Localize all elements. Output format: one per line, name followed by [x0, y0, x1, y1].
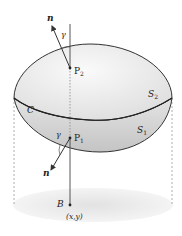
- surface-s2: [14, 44, 172, 120]
- label-coords: (x,y): [66, 212, 83, 221]
- region-b-shadow: [13, 188, 173, 222]
- surface-integral-diagram: n γ P2 S2 C S1 γ P1 n B (x,y): [0, 0, 182, 236]
- diagram-svg: n γ P2 S2 C S1 γ P1 n B (x,y): [0, 0, 182, 236]
- point-p2: [69, 67, 72, 70]
- label-normal-top: n: [47, 13, 54, 23]
- label-normal-bottom: n: [43, 168, 50, 178]
- label-angle-bottom: γ: [56, 130, 61, 139]
- label-curve-c: C: [27, 105, 34, 115]
- point-xy: [69, 204, 72, 207]
- point-p1: [69, 137, 72, 140]
- label-region-b: B: [56, 199, 64, 209]
- angle-arc-bottom: [59, 145, 60, 155]
- label-angle-top: γ: [61, 30, 66, 39]
